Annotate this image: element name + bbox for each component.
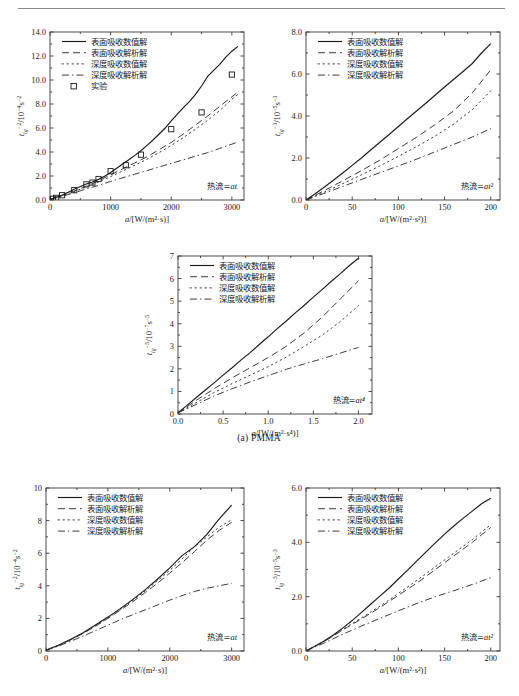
y-tick-label: 10.0 — [31, 76, 46, 85]
heat-flux-annotation: 热流=at — [207, 181, 237, 191]
legend-label: 表面吸收数值解 — [347, 493, 404, 503]
y-tick-label: 8.0 — [292, 28, 302, 37]
x-tick-label: 0 — [304, 654, 308, 663]
x-tick-label: 0.0 — [173, 417, 183, 426]
chart-panel-bottom-left: 01000200030000246810a/[W/(m²·s)]tig−2/10… — [6, 478, 256, 683]
subfigure-caption-a: (a) PMMA — [134, 433, 384, 443]
y-tick-label: 3 — [170, 342, 174, 351]
y-tick-label: 6.0 — [36, 124, 46, 133]
chart-panel-middle: 0.00.51.01.52.001234567a/[W/(m²·s⁴)]tig−… — [134, 248, 384, 448]
x-tick-label: 2000 — [163, 203, 180, 212]
y-tick-label: 4.0 — [292, 112, 302, 121]
heat-flux-annotation: 热流=at — [207, 632, 237, 642]
x-tick-label: 0 — [48, 203, 52, 212]
x-tick-label: 1.0 — [263, 417, 273, 426]
legend-label: 表面吸收解析解 — [219, 272, 276, 282]
legend-label: 表面吸收解析解 — [347, 48, 404, 58]
y-tick-label: 2 — [170, 365, 174, 374]
y-axis-label: tig−5/10−7s−5 — [144, 315, 156, 356]
legend-label: 表面吸收数值解 — [91, 37, 148, 47]
y-tick-label: 6 — [38, 549, 42, 558]
y-tick-label: 6.0 — [292, 484, 302, 493]
legend-label: 深度吸收解析解 — [91, 70, 148, 80]
y-tick-label: 7 — [170, 252, 174, 261]
chart-panel-top-left: 01000200030000.02.04.06.08.010.012.014.0… — [6, 22, 256, 232]
legend-label: 深度吸收数值解 — [347, 515, 404, 525]
experiment-marker — [199, 110, 204, 115]
y-tick-label: 0 — [170, 410, 174, 419]
legend-label: 深度吸收数值解 — [219, 283, 276, 293]
legend-label: 深度吸收数值解 — [87, 515, 144, 525]
x-tick-label: 150 — [438, 654, 451, 663]
y-tick-label: 8.0 — [36, 100, 46, 109]
y-tick-label: 0.0 — [292, 196, 302, 205]
y-tick-label: 4.0 — [36, 148, 46, 157]
heat-flux-annotation: 热流=at² — [461, 181, 494, 191]
x-tick-label: 2.0 — [353, 417, 363, 426]
x-tick-label: 50 — [348, 203, 356, 212]
x-tick-label: 3000 — [223, 654, 240, 663]
x-axis-label: a/[W/(m²·s²)] — [380, 214, 427, 224]
chart-top-right-svg: 0501001502000.02.04.06.08.0a/[W/(m²·s²)]… — [262, 22, 512, 232]
x-tick-label: 50 — [348, 654, 356, 663]
heat-flux-annotation: 热流=at² — [461, 632, 494, 642]
legend-label: 深度吸收解析解 — [347, 70, 404, 80]
legend-label: 深度吸收数值解 — [91, 59, 148, 69]
x-tick-label: 1.5 — [308, 417, 318, 426]
y-tick-label: 2 — [38, 614, 42, 623]
x-tick-label: 0 — [44, 654, 48, 663]
y-axis-label: tig−3/10−5s−3 — [272, 96, 284, 137]
y-tick-label: 4 — [170, 320, 175, 329]
heat-flux-annotation: 热流=at⁴ — [333, 395, 366, 405]
y-tick-label: 5 — [170, 297, 174, 306]
y-tick-label: 14.0 — [31, 28, 46, 37]
chart-top-left-svg: 01000200030000.02.04.06.08.010.012.014.0… — [6, 22, 256, 232]
y-tick-label: 2.0 — [292, 154, 302, 163]
y-tick-label: 4 — [38, 582, 43, 591]
y-tick-label: 6.0 — [292, 70, 302, 79]
y-axis-label: tig−2/10−4s−2 — [12, 549, 24, 590]
legend-label: 表面吸收解析解 — [91, 48, 148, 58]
legend-label: 表面吸收数值解 — [87, 493, 144, 503]
series-line — [178, 306, 358, 413]
series-line — [178, 347, 358, 412]
experiment-marker — [229, 72, 234, 77]
y-tick-label: 2.0 — [36, 172, 46, 181]
x-tick-label: 100 — [392, 203, 405, 212]
y-tick-label: 8 — [38, 517, 42, 526]
x-tick-label: 200 — [484, 654, 497, 663]
x-axis-label: a/[W/(m²·s)] — [123, 665, 167, 675]
x-tick-label: 0 — [304, 203, 308, 212]
y-tick-label: 1 — [170, 387, 174, 396]
figure-page: 01000200030000.02.04.06.08.010.012.014.0… — [0, 0, 519, 696]
legend-label: 实验 — [91, 81, 108, 91]
y-tick-label: 0.0 — [292, 647, 302, 656]
y-tick-label: 0.0 — [36, 196, 46, 205]
x-tick-label: 100 — [392, 654, 405, 663]
series-line — [46, 583, 232, 650]
legend-label: 深度吸收解析解 — [347, 526, 404, 536]
x-tick-label: 150 — [438, 203, 451, 212]
x-tick-label: 3000 — [224, 203, 241, 212]
series-line — [46, 522, 232, 650]
y-axis-label: tig−2/10−4s−2 — [16, 96, 28, 137]
chart-middle-svg: 0.00.51.01.52.001234567a/[W/(m²·s⁴)]tig−… — [134, 248, 384, 448]
x-axis-label: a/[W/(m²·s²)] — [380, 665, 427, 675]
legend-label: 深度吸收解析解 — [219, 294, 276, 304]
legend-label: 深度吸收数值解 — [347, 59, 404, 69]
x-tick-label: 1000 — [102, 203, 119, 212]
top-divider-rule — [18, 8, 505, 9]
y-tick-label: 10 — [34, 484, 42, 493]
x-tick-label: 1000 — [100, 654, 117, 663]
legend-label: 深度吸收解析解 — [87, 526, 144, 536]
y-tick-label: 0 — [38, 647, 42, 656]
y-tick-label: 4.0 — [292, 538, 302, 547]
chart-bottom-left-svg: 01000200030000246810a/[W/(m²·s)]tig−2/10… — [6, 478, 256, 683]
series-line — [46, 520, 232, 650]
y-tick-label: 2.0 — [292, 593, 302, 602]
x-tick-label: 200 — [484, 203, 497, 212]
x-tick-label: 2000 — [161, 654, 178, 663]
chart-bottom-right-svg: 0501001502000.02.04.06.0a/[W/(m²·s²)]tig… — [262, 478, 512, 683]
y-tick-label: 6 — [170, 275, 174, 284]
experiment-marker — [169, 127, 174, 132]
